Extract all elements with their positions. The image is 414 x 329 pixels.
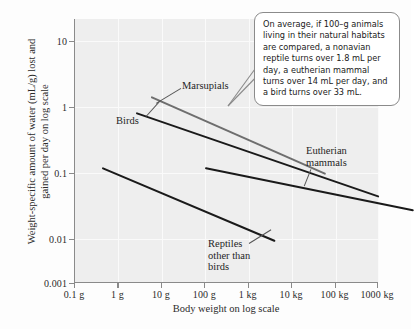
- y-tick-label: 0.001: [44, 278, 67, 289]
- marsupials-label: Marsupials: [182, 80, 229, 92]
- gridline-vertical: [118, 19, 119, 282]
- y-axis-title-line-1: Weight-specific amount of water (mL/g) l…: [26, 12, 39, 272]
- x-tick-label: 100 kg: [321, 289, 349, 300]
- y-tick-label: 10: [57, 36, 67, 47]
- x-tick-mark: [377, 283, 378, 288]
- eutherian-mammals-label-line-2: mammals: [306, 157, 347, 169]
- x-tick-mark: [161, 283, 162, 288]
- y-tick-mark: [69, 41, 74, 42]
- y-axis-title-line-2: gained per day on log scale: [38, 12, 51, 272]
- x-axis-title: Body weight on log scale: [74, 303, 378, 314]
- x-tick-mark: [117, 283, 118, 288]
- y-tick-mark: [69, 283, 74, 284]
- y-tick-label: 1: [62, 102, 67, 113]
- y-tick-mark: [69, 239, 74, 240]
- x-tick-label: 10 g: [152, 289, 170, 300]
- y-tick-label: 0.1: [54, 168, 67, 179]
- x-tick-label: 100 g: [193, 289, 216, 300]
- gridline-vertical: [162, 19, 163, 282]
- eutherian-mammals-label: Eutherian mammals: [306, 145, 347, 168]
- x-tick-mark: [291, 283, 292, 288]
- eutherian-mammals-label-line-1: Eutherian: [306, 145, 347, 157]
- y-axis-title: Weight-specific amount of water (mL/g) l…: [26, 12, 51, 272]
- reptiles-label-line-2: other than: [208, 250, 250, 262]
- x-tick-label: 10 kg: [280, 289, 303, 300]
- y-tick-label: 0.01: [49, 234, 67, 245]
- x-tick-label: 1000 kg: [360, 289, 393, 300]
- reptiles-label-line-3: birds: [208, 261, 250, 273]
- x-tick-label: 1 g: [111, 289, 124, 300]
- x-tick-mark: [74, 283, 75, 288]
- x-tick-label: 0.1 g: [64, 289, 85, 300]
- reptiles-label-line-1: Reptiles: [208, 238, 250, 250]
- birds-label: Birds: [116, 115, 139, 127]
- x-tick-mark: [204, 283, 205, 288]
- callout-box: On average, if 100–g animals living in t…: [254, 12, 400, 106]
- reptiles-label: Reptiles other than birds: [208, 238, 250, 273]
- x-tick-mark: [248, 283, 249, 288]
- y-tick-mark: [69, 173, 74, 174]
- y-tick-mark: [69, 107, 74, 108]
- gridline-vertical: [205, 19, 206, 282]
- x-tick-mark: [335, 283, 336, 288]
- x-tick-label: 1 kg: [239, 289, 257, 300]
